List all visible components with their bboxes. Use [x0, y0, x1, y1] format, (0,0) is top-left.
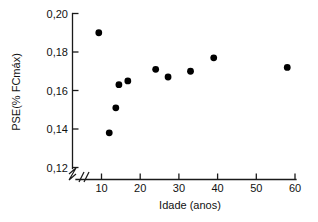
- data-point: [112, 104, 119, 111]
- data-points-layer: [95, 29, 290, 136]
- data-point: [210, 54, 217, 61]
- x-tick-label-10: 10: [95, 182, 107, 194]
- y-tick-label-0-14: 0,14: [47, 123, 68, 135]
- data-point: [116, 81, 123, 88]
- x-tick-label-20: 20: [134, 182, 146, 194]
- y-tick-label-0-12: 0,12: [47, 162, 68, 174]
- data-point: [187, 68, 194, 75]
- x-tick-label-40: 40: [211, 182, 223, 194]
- y-axis: 0,20 0,18 0,16 0,14 0,12 PSE(% FCmáx): [10, 8, 79, 174]
- y-tick-label-0-18: 0,18: [47, 46, 68, 58]
- scatter-chart: 0,20 0,18 0,16 0,14 0,12 PSE(% FCmáx) 10…: [0, 0, 318, 222]
- data-point: [165, 74, 172, 81]
- x-axis: 10 20 30 40 50 60 Idade (anos): [76, 174, 301, 212]
- data-point: [95, 29, 102, 36]
- data-point: [284, 64, 291, 71]
- data-point: [106, 129, 113, 136]
- x-tick-label-30: 30: [173, 182, 185, 194]
- data-point: [124, 77, 131, 84]
- x-tick-label-60: 60: [289, 182, 301, 194]
- y-axis-title: PSE(% FCmáx): [10, 53, 22, 131]
- y-tick-label-0-16: 0,16: [47, 85, 68, 97]
- data-point: [152, 66, 159, 73]
- y-tick-label-0-20: 0,20: [47, 8, 68, 20]
- x-tick-label-50: 50: [250, 182, 262, 194]
- x-axis-title: Idade (anos): [159, 199, 221, 211]
